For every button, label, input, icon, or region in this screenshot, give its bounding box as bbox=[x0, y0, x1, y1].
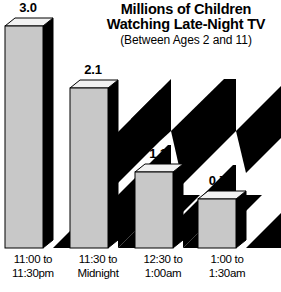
bar-3-side bbox=[173, 164, 183, 248]
bar-value-label-3: 1.1 bbox=[132, 146, 184, 161]
category-label-1: 11:00 to 11:30pm bbox=[0, 252, 66, 281]
bar-value-label-4: 0.75 bbox=[193, 173, 249, 188]
bar-4-front bbox=[198, 199, 236, 248]
bar-2[interactable] bbox=[70, 80, 118, 248]
bar-3-front bbox=[135, 172, 173, 248]
category-label-1-line-2: 11:30pm bbox=[0, 266, 66, 280]
bar-chart: Millions of Children Watching Late-Night… bbox=[0, 0, 281, 292]
category-label-4-line-2: 1:30am bbox=[194, 266, 260, 280]
category-label-2: 11:30 to Midnight bbox=[65, 252, 131, 281]
bar-2-side bbox=[108, 80, 118, 248]
bar-2-front bbox=[70, 88, 108, 248]
category-label-1-line-1: 11:00 to bbox=[0, 252, 66, 266]
bar-4[interactable] bbox=[198, 191, 246, 248]
bar-1-side bbox=[43, 18, 53, 248]
category-label-2-line-1: 11:30 to bbox=[65, 252, 131, 266]
category-axis: 11:00 to 11:30pm 11:30 to Midnight 12:30… bbox=[0, 252, 281, 292]
bar-1[interactable] bbox=[5, 18, 53, 248]
bar-1-front bbox=[5, 26, 43, 248]
bar-value-label-2: 2.1 bbox=[67, 62, 119, 77]
category-label-4: 1:00 to 1:30am bbox=[194, 252, 260, 281]
bar-3[interactable] bbox=[135, 164, 183, 248]
bars-svg bbox=[0, 0, 281, 252]
category-label-4-line-1: 1:00 to bbox=[194, 252, 260, 266]
plot-area: 3.0 2.1 1.1 0.75 bbox=[0, 0, 281, 252]
category-label-3-line-2: 1:00am bbox=[130, 266, 196, 280]
bar-value-label-1: 3.0 bbox=[2, 0, 54, 15]
bar-4-side bbox=[236, 191, 246, 248]
bar-shadow-4 bbox=[246, 213, 281, 248]
category-label-3: 12:30 to 1:00am bbox=[130, 252, 196, 281]
bar-shadow-band-3 bbox=[236, 86, 281, 173]
category-label-3-line-1: 12:30 to bbox=[130, 252, 196, 266]
category-label-2-line-2: Midnight bbox=[65, 266, 131, 280]
